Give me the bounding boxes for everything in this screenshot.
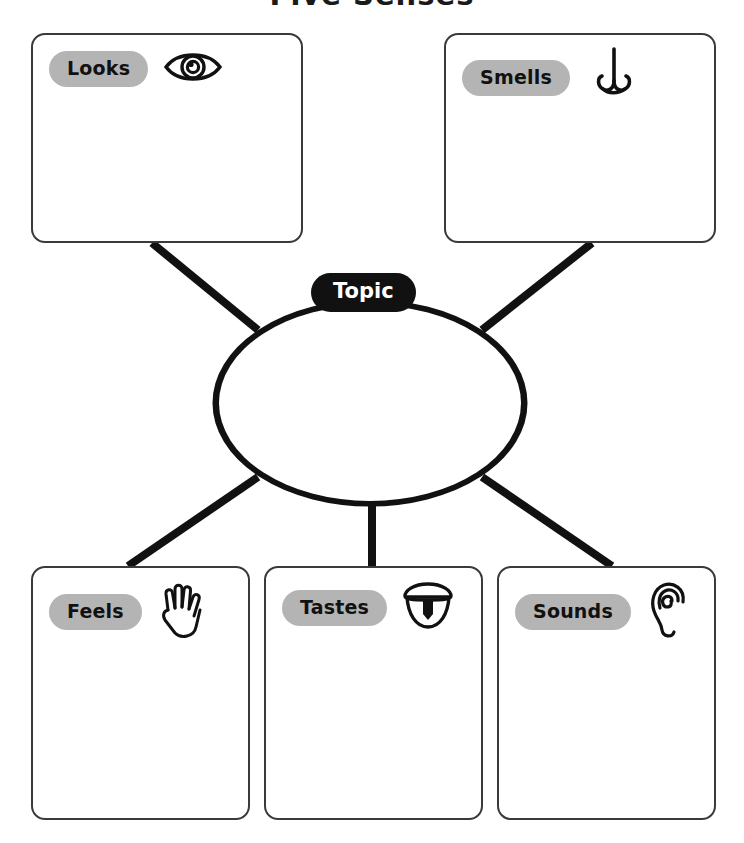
sense-box-feels[interactable]: Feels — [31, 566, 250, 820]
connector-sounds — [482, 477, 612, 566]
box-head-looks: Looks — [49, 47, 224, 91]
box-head-smells: Smells — [462, 47, 640, 109]
connector-feels — [128, 477, 258, 566]
sense-label-looks: Looks — [49, 51, 148, 87]
connector-looks — [152, 243, 258, 330]
mouth-tongue-icon — [401, 580, 455, 636]
box-head-feels: Feels — [49, 580, 212, 644]
sense-box-looks[interactable]: Looks — [31, 33, 303, 243]
topic-pill[interactable]: Topic — [311, 273, 416, 312]
box-head-tastes: Tastes — [282, 580, 455, 636]
sense-box-smells[interactable]: Smells — [444, 33, 716, 243]
sense-label-sounds: Sounds — [515, 594, 631, 630]
sense-box-sounds[interactable]: Sounds — [497, 566, 716, 820]
sense-label-tastes: Tastes — [282, 590, 387, 626]
topic-write-area[interactable] — [219, 305, 521, 501]
sense-label-smells: Smells — [462, 60, 570, 96]
page-title: Five Senses — [0, 0, 744, 12]
ear-icon — [645, 580, 693, 644]
hand-icon — [156, 580, 212, 644]
connector-smells — [482, 243, 592, 330]
sense-label-feels: Feels — [49, 594, 142, 630]
graphic-organizer-page: Five Senses Looks — [0, 0, 744, 843]
sense-box-tastes[interactable]: Tastes — [264, 566, 483, 820]
eye-icon — [162, 47, 224, 91]
nose-icon — [584, 47, 640, 109]
box-head-sounds: Sounds — [515, 580, 693, 644]
